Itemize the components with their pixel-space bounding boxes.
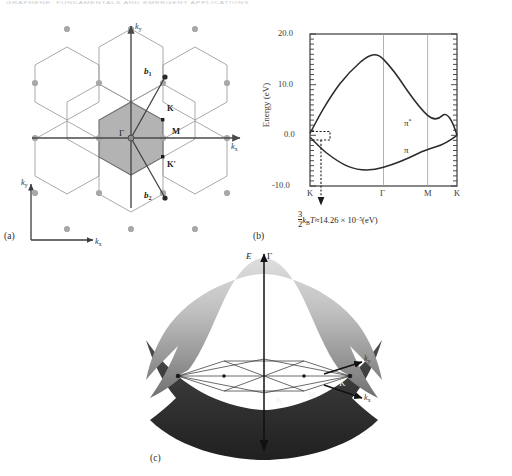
ytick-10: 10.0 [278, 80, 293, 89]
panel-c-energy-axis-label: E [246, 252, 252, 261]
y-axis-title: Energy (eV) [261, 69, 271, 141]
panel-c-figure [128, 248, 400, 476]
Kprime-point-label: K' [167, 160, 176, 169]
panel-c-K-right-label: K [339, 379, 346, 388]
ytick-0: 0.0 [284, 130, 295, 139]
pi-band-label: π [404, 146, 409, 155]
pi-star-band-label: π* [404, 118, 412, 128]
M-point-label: M [172, 127, 180, 136]
b1-vector-label: b1 [144, 67, 152, 77]
xtick-M: M [424, 189, 432, 198]
panel-c-dirac-cones: E Γ ky kx K M K (c) [128, 248, 400, 476]
panel-a-reciprocal-lattice: kx ky ky kx Γ K K' M b1 b2 (a) [0, 8, 252, 246]
panel-a-inset-axes [31, 184, 93, 240]
thermal-arrowhead [318, 197, 325, 206]
panel-b-label: (b) [253, 232, 264, 242]
xtick-K-left: K [307, 189, 313, 198]
panel-a-label: (a) [4, 232, 15, 242]
panel-a-kx-axis-label: kx [231, 142, 238, 152]
thermal-energy-formula: 3 2 kBT≈14.26 × 10−5(eV) [298, 210, 378, 228]
xtick-K-right: K [454, 189, 460, 198]
panel-c-M-label: M [308, 391, 316, 400]
running-header-text: GRAPHENE: FUNDAMENTALS AND EMERGENT APPL… [6, 1, 512, 5]
K-point-label: K [167, 104, 174, 113]
panel-a-inset-ky-label: ky [21, 178, 28, 188]
ytick-minus10: -10.0 [272, 181, 290, 190]
panel-c-K-left-label: K [276, 396, 283, 405]
xtick-Gamma: Γ [380, 189, 385, 198]
panel-a-ky-axis-label: ky [135, 22, 142, 32]
gamma-point-label: Γ [119, 129, 124, 138]
panel-c-kx-axis-label: kx [364, 393, 371, 403]
panel-a-figure [0, 8, 252, 246]
ytick-20: 20.0 [278, 29, 293, 38]
panel-a-inset-kx-label: kx [95, 237, 102, 247]
b2-vector-label: b2 [144, 191, 152, 201]
panel-c-label: (c) [150, 454, 161, 464]
panel-c-gamma-label: Γ [267, 252, 272, 261]
panel-b-band-structure: 20.0 10.0 0.0 -10.0 Energy (eV) K Γ M K … [252, 14, 512, 246]
panel-c-ky-axis-label: ky [364, 354, 371, 364]
